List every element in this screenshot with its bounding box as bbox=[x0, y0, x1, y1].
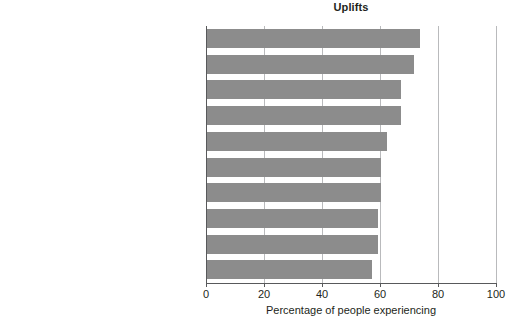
x-tick-mark bbox=[496, 283, 497, 287]
bar bbox=[207, 158, 381, 177]
x-tick-label: 100 bbox=[476, 288, 511, 300]
x-tick-label: 20 bbox=[244, 288, 284, 300]
x-tick-mark bbox=[206, 283, 207, 287]
gridline bbox=[496, 26, 497, 283]
x-axis-line bbox=[206, 283, 497, 284]
bar bbox=[207, 106, 401, 125]
x-tick-label: 40 bbox=[302, 288, 342, 300]
bar bbox=[207, 260, 372, 279]
bar bbox=[207, 183, 381, 202]
chart-title: Uplifts bbox=[206, 1, 496, 13]
bar bbox=[207, 132, 387, 151]
x-tick-label: 0 bbox=[186, 288, 226, 300]
bar bbox=[207, 80, 401, 99]
bar bbox=[207, 209, 378, 228]
bar bbox=[207, 55, 414, 74]
x-tick-mark bbox=[380, 283, 381, 287]
x-tick-mark bbox=[322, 283, 323, 287]
bar-chart: Uplifts 020406080100 Relating well with … bbox=[0, 0, 511, 323]
x-tick-mark bbox=[264, 283, 265, 287]
gridline bbox=[438, 26, 439, 283]
x-tick-label: 80 bbox=[418, 288, 458, 300]
x-tick-label: 60 bbox=[360, 288, 400, 300]
x-tick-mark bbox=[438, 283, 439, 287]
x-axis-title: Percentage of people experiencing bbox=[206, 304, 496, 316]
bar bbox=[207, 235, 378, 254]
bar bbox=[207, 29, 420, 48]
